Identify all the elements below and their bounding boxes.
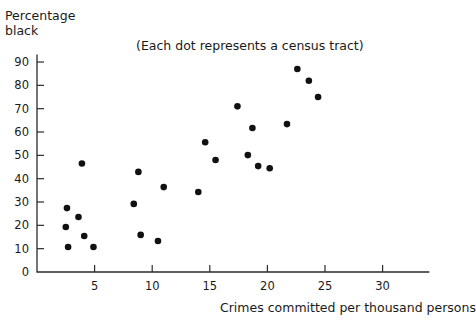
data-point: [195, 189, 202, 196]
data-point: [64, 205, 71, 212]
y-tick-label: 60: [14, 125, 29, 139]
data-point: [65, 244, 72, 251]
data-point: [249, 125, 256, 132]
data-point: [79, 160, 86, 167]
y-tick-label: 30: [14, 195, 29, 209]
data-point: [130, 201, 137, 208]
y-tick-label: 90: [14, 55, 29, 69]
x-axis-ticks: 51015202530: [91, 265, 390, 293]
data-point: [81, 233, 88, 240]
x-tick-label: 20: [260, 279, 275, 293]
y-tick-label: 20: [14, 218, 29, 232]
data-point: [255, 163, 262, 170]
data-point: [160, 184, 167, 191]
data-point: [75, 214, 82, 221]
data-point: [90, 244, 97, 251]
data-point: [137, 232, 144, 239]
y-tick-label: 70: [14, 102, 29, 116]
data-point: [284, 121, 291, 128]
y-tick-label: 0: [22, 265, 29, 279]
x-tick-label: 15: [202, 279, 217, 293]
x-tick-label: 30: [375, 279, 390, 293]
y-tick-label: 80: [14, 78, 29, 92]
data-point: [245, 152, 252, 159]
data-point: [212, 157, 219, 164]
axis-lines: [37, 55, 429, 272]
y-tick-label: 10: [14, 242, 29, 256]
data-point: [155, 238, 162, 245]
data-point: [306, 77, 313, 84]
data-point: [63, 224, 70, 231]
data-point: [294, 66, 301, 73]
y-tick-label: 40: [14, 172, 29, 186]
y-axis-ticks: 0102030405060708090: [14, 55, 44, 279]
x-tick-label: 5: [91, 279, 98, 293]
y-tick-label: 50: [14, 148, 29, 162]
x-tick-label: 25: [318, 279, 333, 293]
data-point: [234, 103, 241, 110]
data-point: [315, 94, 322, 101]
x-tick-label: 10: [145, 279, 160, 293]
data-point: [202, 139, 209, 146]
data-points: [63, 66, 322, 251]
data-point: [266, 165, 273, 172]
data-point: [135, 169, 142, 176]
